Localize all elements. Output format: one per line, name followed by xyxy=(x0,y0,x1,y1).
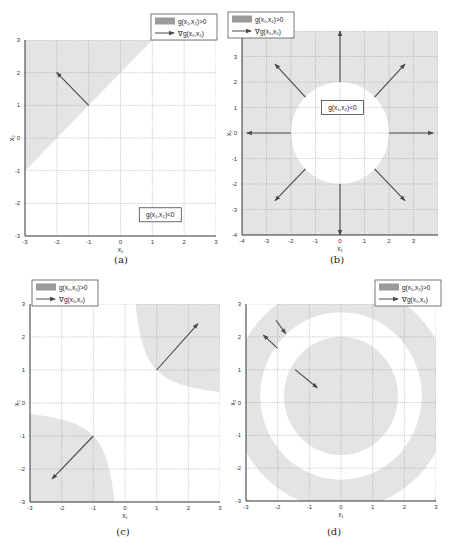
svg-text:2: 2 xyxy=(187,505,191,511)
svg-text:g(x₁,x₂)<0: g(x₁,x₂)<0 xyxy=(328,104,357,112)
svg-text:2: 2 xyxy=(17,70,21,76)
subplot-c: -3-2-10123-3-2-10123x₁x₂g(x₁,x₂)>0∇g(x₁,… xyxy=(0,275,225,556)
svg-text:-1: -1 xyxy=(91,505,97,511)
caption-c: (c) xyxy=(103,526,143,537)
svg-text:-1: -1 xyxy=(15,168,21,174)
svg-text:3: 3 xyxy=(434,504,438,510)
svg-text:3: 3 xyxy=(22,301,26,307)
svg-text:-3: -3 xyxy=(20,499,26,505)
legend: g(x₁,x₂)>0∇g(x₁,x₂) xyxy=(32,280,98,306)
plot-d-canvas: -3-2-10123-3-2-10123x₁x₂g(x₁,x₂)>0∇g(x₁,… xyxy=(225,275,451,556)
negative-region-label: g(x₁,x₂)<0 xyxy=(139,208,181,222)
plot-area xyxy=(242,31,438,235)
y-axis-label: x₂ xyxy=(229,399,236,405)
x-axis-label: x₁ xyxy=(338,511,344,518)
svg-text:-2: -2 xyxy=(275,504,281,510)
svg-text:0: 0 xyxy=(119,239,123,245)
svg-text:1: 1 xyxy=(22,367,26,373)
svg-text:1: 1 xyxy=(151,239,155,245)
svg-text:0: 0 xyxy=(338,238,342,244)
caption-b: (b) xyxy=(317,254,357,265)
svg-text:-1: -1 xyxy=(232,156,238,162)
svg-text:3: 3 xyxy=(214,239,218,245)
svg-text:-2: -2 xyxy=(59,505,65,511)
legend: g(x₁,x₂)>0∇g(x₁,x₂) xyxy=(375,280,441,306)
svg-text:-3: -3 xyxy=(243,504,249,510)
svg-text:2: 2 xyxy=(182,239,186,245)
svg-text:3: 3 xyxy=(234,54,238,60)
legend-swatch xyxy=(379,284,399,291)
svg-text:1: 1 xyxy=(371,504,375,510)
svg-text:0: 0 xyxy=(22,400,26,406)
svg-text:-1: -1 xyxy=(236,432,242,438)
y-tick-labels: -3-2-10123 xyxy=(236,301,242,504)
svg-text:3: 3 xyxy=(238,301,242,307)
legend-label-positive: g(x₁,x₂)>0 xyxy=(178,18,207,26)
svg-text:0: 0 xyxy=(123,505,127,511)
subplot-b: -4-3-2-10123-4-3-2-10123x₁x₂g(x₁,x₂)>0∇g… xyxy=(225,0,451,275)
svg-text:-1: -1 xyxy=(313,238,319,244)
negative-region-label: g(x₁,x₂)<0 xyxy=(321,101,363,115)
y-axis-label: x₂ xyxy=(225,130,232,136)
legend: g(x₁,x₂)>0∇g(x₁,x₂) xyxy=(151,14,217,40)
plot-b-canvas: -4-3-2-10123-4-3-2-10123x₁x₂g(x₁,x₂)>0∇g… xyxy=(225,0,451,275)
svg-text:-4: -4 xyxy=(232,232,238,238)
svg-text:-3: -3 xyxy=(22,239,28,245)
svg-text:2: 2 xyxy=(403,504,407,510)
legend: g(x₁,x₂)>0∇g(x₁,x₂) xyxy=(228,12,294,38)
x-axis-label: x₁ xyxy=(122,512,128,519)
svg-text:0: 0 xyxy=(234,130,238,136)
x-tick-labels: -3-2-10123 xyxy=(243,504,438,510)
x-tick-labels: -4-3-2-10123 xyxy=(239,238,416,244)
svg-text:0: 0 xyxy=(17,135,21,141)
svg-text:-2: -2 xyxy=(288,238,294,244)
svg-text:-4: -4 xyxy=(239,238,245,244)
svg-text:-3: -3 xyxy=(264,238,270,244)
legend-label-gradient: ∇g(x₁,x₂) xyxy=(254,28,281,36)
plot-a-canvas: -3-2-10123-3-2-10123x₁x₂g(x₁,x₂)>0∇g(x₁,… xyxy=(0,0,225,275)
legend-swatch xyxy=(232,16,252,23)
svg-text:1: 1 xyxy=(17,102,21,108)
legend-label-positive: g(x₁,x₂)>0 xyxy=(255,16,284,24)
svg-text:-1: -1 xyxy=(20,433,26,439)
svg-text:-2: -2 xyxy=(15,200,21,206)
svg-text:2: 2 xyxy=(234,79,238,85)
y-tick-labels: -3-2-10123 xyxy=(20,301,26,505)
plot-area xyxy=(25,40,216,236)
svg-text:-2: -2 xyxy=(236,465,242,471)
svg-text:1: 1 xyxy=(238,367,242,373)
svg-text:3: 3 xyxy=(17,37,21,43)
svg-text:0: 0 xyxy=(339,504,343,510)
svg-text:3: 3 xyxy=(218,505,222,511)
svg-text:-2: -2 xyxy=(54,239,60,245)
legend-swatch xyxy=(155,18,175,25)
plot-area xyxy=(30,304,220,502)
x-tick-labels: -3-2-10123 xyxy=(22,239,218,245)
caption-a: (a) xyxy=(101,254,141,265)
svg-text:-3: -3 xyxy=(27,505,33,511)
svg-text:1: 1 xyxy=(155,505,159,511)
svg-text:-1: -1 xyxy=(307,504,313,510)
svg-text:-2: -2 xyxy=(232,181,238,187)
legend-label-positive: g(x₁,x₂)>0 xyxy=(59,284,88,292)
x-tick-labels: -3-2-10123 xyxy=(27,505,222,511)
legend-label-gradient: ∇g(x₁,x₂) xyxy=(401,296,428,304)
svg-text:2: 2 xyxy=(22,334,26,340)
y-tick-labels: -4-3-2-10123 xyxy=(232,54,238,239)
legend-label-positive: g(x₁,x₂)>0 xyxy=(402,284,431,292)
svg-text:-3: -3 xyxy=(236,498,242,504)
x-axis-label: x₁ xyxy=(337,245,343,252)
y-tick-labels: -3-2-10123 xyxy=(15,37,21,239)
svg-text:2: 2 xyxy=(387,238,391,244)
y-axis-label: x₂ xyxy=(8,135,15,141)
svg-text:1: 1 xyxy=(363,238,367,244)
svg-text:3: 3 xyxy=(412,238,416,244)
svg-text:-1: -1 xyxy=(86,239,92,245)
legend-label-gradient: ∇g(x₁,x₂) xyxy=(58,296,85,304)
svg-text:-2: -2 xyxy=(20,466,26,472)
caption-d: (d) xyxy=(314,526,354,537)
subplot-a: -3-2-10123-3-2-10123x₁x₂g(x₁,x₂)>0∇g(x₁,… xyxy=(0,0,225,275)
svg-text:-3: -3 xyxy=(15,233,21,239)
subplot-d: -3-2-10123-3-2-10123x₁x₂g(x₁,x₂)>0∇g(x₁,… xyxy=(225,275,451,556)
svg-text:g(x₁,x₂)<0: g(x₁,x₂)<0 xyxy=(146,211,175,219)
